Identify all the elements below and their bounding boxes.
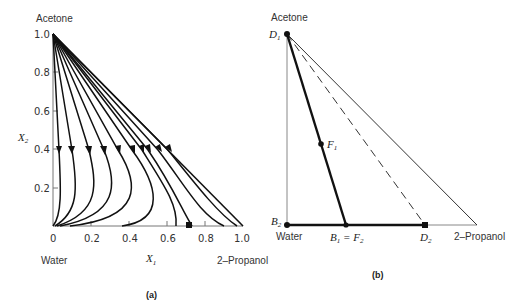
figure: Acetone 1.0 0.8 0.6 0.4 0.2 0 0.2 0.4 0.… — [0, 0, 518, 301]
water-label-b: Water — [276, 231, 303, 242]
residue-curve — [53, 34, 60, 226]
caption-a: (a) — [146, 290, 157, 300]
x-axis-label: X1 — [145, 252, 156, 267]
d2-label: D2 — [419, 231, 432, 245]
point-f1 — [318, 141, 324, 147]
propanol-label-a: 2–Propanol — [217, 255, 268, 266]
x-tick-0.2: 0.2 — [84, 233, 100, 244]
point-b1-f2 — [343, 222, 348, 227]
arrow-down-icon — [115, 145, 121, 154]
square-marker — [186, 222, 192, 228]
line-d1-b1 — [287, 34, 346, 225]
panel-b: Acetone D1 F1 B2 Water B1 = F2 D2 2–Prop… — [268, 12, 505, 280]
arrow-down-icon — [129, 145, 135, 154]
y-tick-0.2: 0.2 — [34, 183, 50, 194]
y-tick-0.6: 0.6 — [34, 106, 50, 117]
y-tick-0.8: 0.8 — [34, 67, 50, 78]
arrow-down-icon — [85, 146, 92, 155]
dashed-line-d1-d2 — [287, 34, 425, 225]
arrow-down-icon — [68, 146, 75, 154]
y-axis-label: X2 — [17, 131, 29, 145]
x-tick-0: 0 — [50, 233, 56, 244]
arrow-down-icon — [56, 146, 62, 154]
x-tick-0.8: 0.8 — [198, 233, 214, 244]
residue-curves — [53, 34, 237, 226]
x-tick-0.6: 0.6 — [160, 233, 176, 244]
x-tick-0.4: 0.4 — [122, 233, 138, 244]
water-label-a: Water — [41, 255, 68, 266]
x-tick-1.0: 1.0 — [234, 233, 250, 244]
f1-label: F1 — [326, 138, 337, 152]
residue-curve — [53, 34, 237, 226]
residue-curve — [53, 34, 224, 226]
propanol-label-b: 2–Propanol — [454, 231, 505, 242]
b2-label: B2 — [271, 215, 282, 229]
d1-label: D1 — [268, 28, 280, 42]
acetone-label-b: Acetone — [271, 12, 308, 23]
y-tick-1.0: 1.0 — [34, 29, 50, 40]
y-tick-0.4: 0.4 — [34, 144, 50, 155]
b1-f2-label: B1 = F2 — [330, 231, 364, 245]
point-b2 — [284, 222, 290, 228]
residue-curve — [53, 34, 176, 226]
panel-a: Acetone 1.0 0.8 0.6 0.4 0.2 0 0.2 0.4 0.… — [17, 13, 268, 300]
caption-b: (b) — [372, 270, 384, 280]
point-d2 — [422, 222, 428, 228]
arrow-down-icon — [139, 144, 144, 153]
point-d1 — [284, 31, 290, 37]
acetone-label-a: Acetone — [36, 13, 73, 24]
